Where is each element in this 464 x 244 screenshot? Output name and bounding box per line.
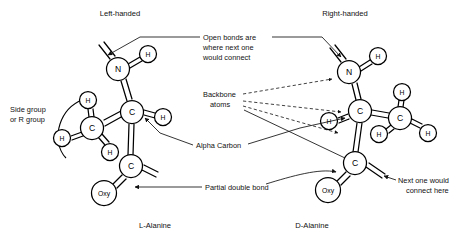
callout-open-bonds-line2: where next one (202, 43, 254, 52)
l-atom-h-beta-1: H (80, 92, 97, 109)
d-atom-carbonyl-carbon-label: C (352, 158, 358, 168)
l-atom-h-alpha-label: H (161, 114, 166, 121)
l-atom-h-beta-3: H (102, 144, 119, 161)
l-atom-alpha-carbon-label: C (129, 107, 135, 117)
l-open-bond-carbonyl (142, 165, 158, 177)
l-atom-carbonyl-carbon: C (120, 155, 143, 178)
callout-partial-double-bond: Partial double bond (135, 171, 336, 192)
l-atom-h-beta-2-label: H (60, 135, 65, 142)
leader-next-connect (384, 176, 396, 180)
l-atom-h-amine: H (140, 46, 157, 63)
callout-backbone-line1: Backbone (203, 90, 236, 99)
alanine-stereoisomer-diagram: Left-handed Right-handed (0, 0, 464, 244)
d-atom-h-beta-2-label: H (377, 131, 382, 138)
d-atom-oxygen: Oxy (316, 178, 341, 203)
l-bond-n-h (128, 57, 142, 68)
molecule-l-alanine: N H C H C H H (54, 42, 172, 206)
l-bond-n-ca (121, 79, 132, 101)
l-atom-alpha-carbon: C (121, 101, 144, 124)
callout-next-connect-line2: connect here (406, 186, 449, 195)
callout-side-group-line2: or R group (10, 115, 45, 124)
d-atom-oxygen-label: Oxy (322, 187, 335, 195)
callout-open-bonds-line3: would connect (202, 53, 250, 62)
callout-side-group-line1: Side group (10, 105, 46, 114)
d-atom-alpha-carbon: C (349, 100, 372, 123)
callout-alpha-carbon-label: Alpha Carbon (196, 141, 241, 150)
figure-root: Left-handed Right-handed (0, 0, 464, 244)
callout-partial-double-bond-label: Partial double bond (205, 183, 269, 192)
l-atom-n-label: N (115, 64, 121, 74)
d-open-bond-carbonyl (366, 163, 385, 178)
d-atom-alpha-carbon-label: C (357, 106, 363, 116)
d-atom-h-alpha: H (321, 113, 338, 130)
d-atom-h-beta-1: H (394, 84, 411, 101)
callout-backbone-line2: atoms (210, 100, 230, 109)
l-atom-oxygen-label: Oxy (98, 190, 111, 198)
d-atom-h-beta-2: H (371, 126, 388, 143)
leader-backbone-to-n (243, 79, 332, 94)
l-atom-beta-carbon: C (81, 117, 104, 140)
leader-backbone-to-alpha (243, 101, 341, 112)
l-atom-h-amine-label: H (146, 51, 151, 58)
l-atom-h-beta-1-label: H (86, 97, 91, 104)
l-atom-h-alpha: H (155, 109, 172, 126)
l-atom-carbonyl-carbon-label: C (128, 161, 134, 171)
d-atom-beta-carbon-label: C (397, 113, 403, 123)
d-atom-h-amine-label: H (376, 53, 381, 60)
d-atom-h-beta-3-label: H (426, 130, 431, 137)
d-atom-n-label: N (346, 67, 352, 77)
l-bond-ca-h (144, 110, 155, 118)
d-atom-h-beta-1-label: H (400, 89, 405, 96)
l-atom-oxygen: Oxy (92, 181, 117, 206)
d-bond-n-h (359, 60, 372, 71)
l-bond-ca-cc (128, 124, 134, 155)
d-atom-h-amine: H (370, 48, 387, 65)
d-atom-h-beta-3: H (420, 125, 437, 142)
l-atom-h-beta-3-label: H (108, 149, 113, 156)
l-atom-n: N (107, 58, 130, 81)
callout-side-group: Side group or R group (10, 105, 46, 124)
d-bond-ca-cb (371, 110, 389, 118)
d-bond-ca-cc (353, 123, 362, 152)
caption-d-alanine: D-Alanine (295, 221, 328, 230)
callout-next-connect-line1: Next one would (398, 176, 449, 185)
d-atom-carbonyl-carbon: C (344, 152, 367, 175)
d-atom-beta-carbon: C (389, 107, 412, 130)
leader-open-bonds-right (272, 37, 341, 57)
d-atom-n: N (338, 61, 361, 84)
l-atom-beta-carbon-label: C (89, 123, 95, 133)
l-open-bond-n (99, 42, 115, 59)
l-bond-cb-h1 (88, 109, 94, 117)
heading-left-handed: Left-handed (100, 9, 141, 18)
d-bond-n-ca (352, 83, 361, 100)
heading-right-handed: Right-handed (322, 9, 368, 18)
callout-next-connect: Next one would connect here (384, 176, 449, 195)
callout-alpha-carbon: Alpha Carbon (145, 118, 345, 150)
caption-l-alanine: L-Alanine (139, 221, 171, 230)
l-atom-h-beta-2: H (54, 130, 71, 147)
callout-open-bonds-line1: Open bonds are (203, 33, 256, 42)
